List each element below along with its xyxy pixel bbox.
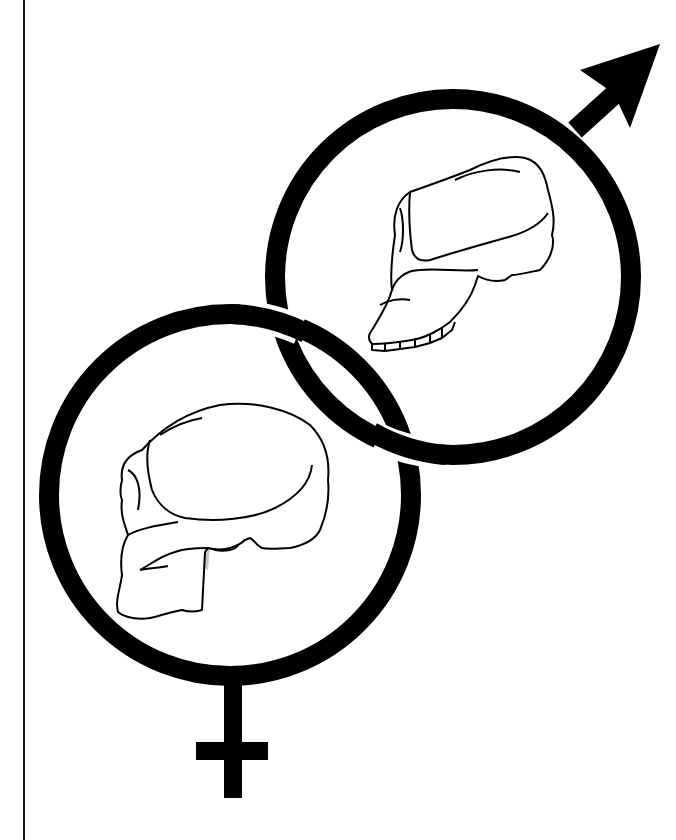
gender-symbols-skulls-figure	[0, 0, 676, 840]
ape-skull-illustration	[369, 157, 554, 351]
female-symbol-icon	[49, 314, 411, 798]
interlock-over-male	[372, 432, 446, 455]
interlock-over-female	[232, 314, 306, 333]
illustration-canvas	[0, 0, 676, 840]
hominin-skull-illustration	[117, 404, 328, 619]
